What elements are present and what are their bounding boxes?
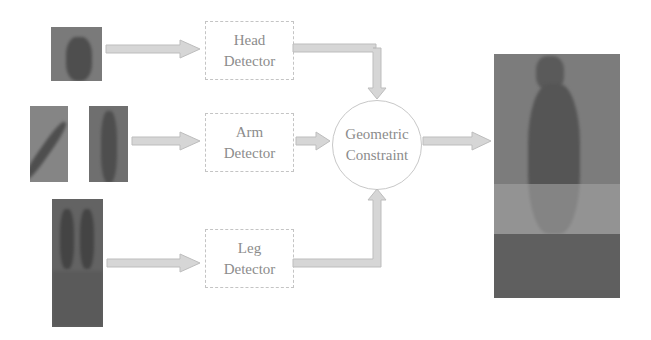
arrow-head-to-constraint-icon: [293, 44, 386, 99]
arrow-arm-to-constraint-icon: [296, 132, 330, 150]
arrow-constraint-to-output-icon: [423, 132, 491, 150]
arrow-leg-input-icon: [107, 254, 200, 272]
pipeline-diagram: Head Detector Arm Detector Leg Detector …: [0, 0, 651, 340]
arrow-head-input-icon: [106, 40, 200, 58]
arrow-arm-input-icon: [132, 132, 200, 150]
arrow-leg-to-constraint-icon: [293, 189, 386, 267]
flow-arrows: [0, 0, 651, 340]
